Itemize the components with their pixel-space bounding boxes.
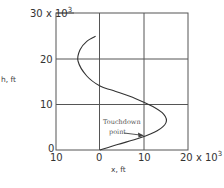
x-tick-0: 0 — [96, 152, 102, 163]
x-tick-10: 10 — [138, 152, 151, 163]
y-tick-20: 20 — [40, 54, 53, 65]
x-tick-20: 20 x 103 — [180, 150, 222, 163]
annotation-point: point — [109, 128, 126, 136]
y-tick-30: 30 x 103 — [30, 6, 72, 19]
annotation-touchdown: Touchdown — [103, 118, 141, 126]
x-tick-neg10: 10 — [50, 152, 63, 163]
x-axis-label: x, ft — [111, 165, 126, 174]
y-axis-label: h, ft — [1, 75, 16, 84]
touchdown-arrow — [124, 133, 144, 138]
y-tick-10: 10 — [40, 99, 53, 110]
chart: Touchdown point 30 x 103 20 10 0 10 0 10… — [0, 0, 224, 188]
